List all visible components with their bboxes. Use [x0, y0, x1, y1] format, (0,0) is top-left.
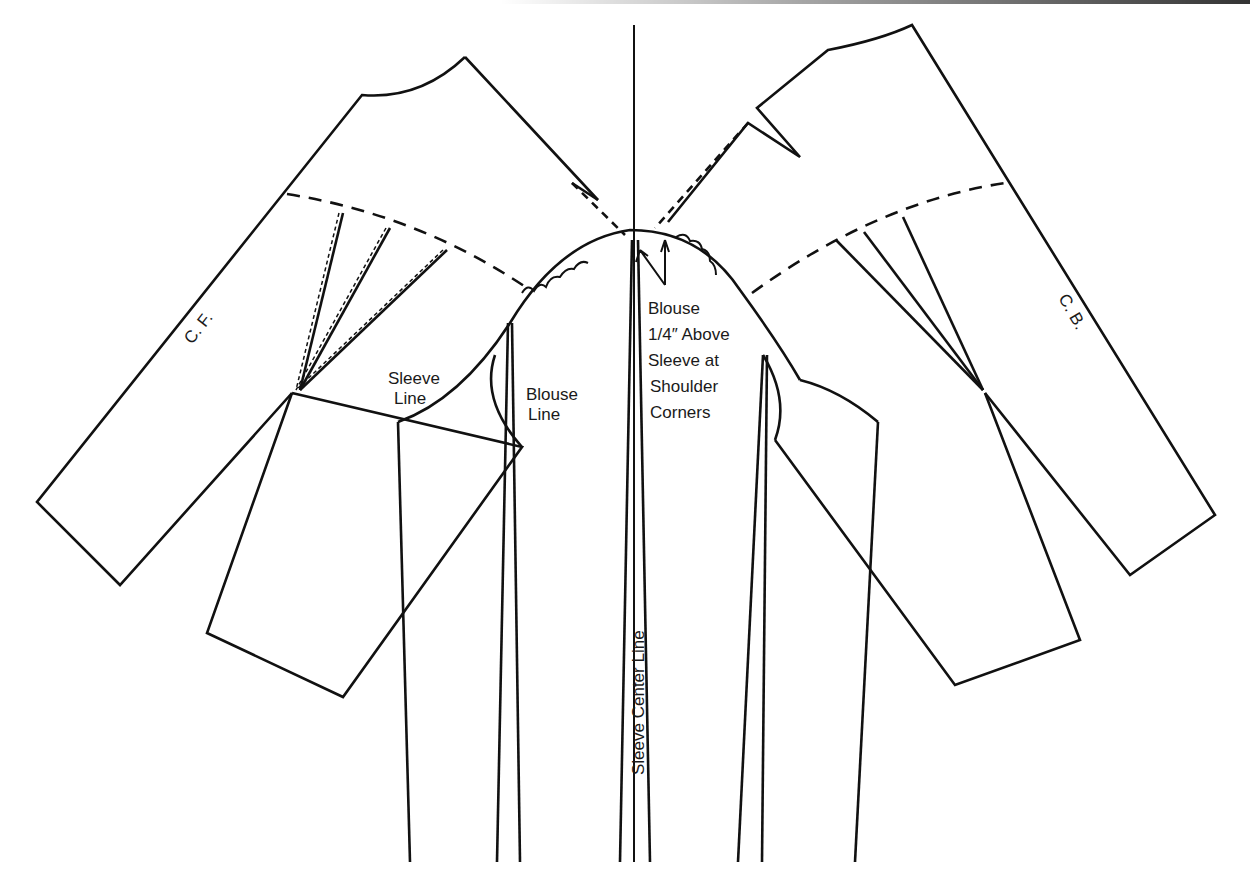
blouse-line-label-1: Blouse — [526, 385, 578, 404]
annotation-line-2: 1/4″ Above — [648, 325, 730, 344]
front-dart-1-dash — [296, 213, 339, 390]
sleeve-side-left-outer — [398, 422, 410, 862]
front-bodice-side — [207, 393, 522, 697]
blouse-line-left-2 — [512, 323, 520, 862]
sleeve-side-right-outer — [855, 422, 878, 862]
top-edge-shadow — [500, 0, 1250, 4]
pattern-drawing: C. F. C. B. — [0, 0, 1250, 887]
annotation-pointer — [636, 250, 665, 285]
sleeve-center-line-label: Sleeve Center Line — [629, 630, 648, 775]
front-shoulder-dash — [572, 183, 625, 235]
sleeve-cap — [398, 230, 800, 422]
pattern-diagram: C. F. C. B. — [0, 0, 1250, 887]
sleeve: Sleeve Center Line — [398, 25, 878, 862]
front-bodice: C. F. — [37, 57, 625, 697]
front-dart-2-dash — [296, 228, 386, 390]
annotation-arrow-up — [661, 240, 669, 285]
back-yoke-line — [752, 182, 1012, 293]
back-shoulder-dash — [655, 123, 748, 228]
front-dart-1 — [300, 213, 343, 390]
sleeve-line-label-2: Line — [394, 389, 426, 408]
sleeve-right-top — [800, 380, 878, 422]
annotation-line-4: Shoulder — [650, 377, 718, 396]
blouse-line-left-1 — [497, 323, 508, 862]
annotation-line-1: Blouse — [648, 299, 700, 318]
annotation-line-3: Sleeve at — [648, 351, 719, 370]
back-bodice: C. B. — [655, 25, 1215, 685]
front-dart-2 — [300, 228, 390, 390]
back-bodice-side — [775, 393, 1080, 685]
blouse-line-right-2 — [762, 355, 767, 862]
back-dart-1 — [836, 240, 983, 390]
back-dart-3 — [903, 217, 983, 390]
back-dart-2 — [864, 232, 983, 390]
sleeve-line-label-1: Sleeve — [388, 369, 440, 388]
center-back-label: C. B. — [1055, 291, 1090, 333]
blouse-line-right-1 — [738, 355, 763, 862]
labels: Sleeve Line Blouse Line Blouse 1/4″ Abov… — [388, 299, 730, 424]
annotation-line-5: Corners — [650, 403, 710, 422]
blouse-line-label-2: Line — [528, 405, 560, 424]
